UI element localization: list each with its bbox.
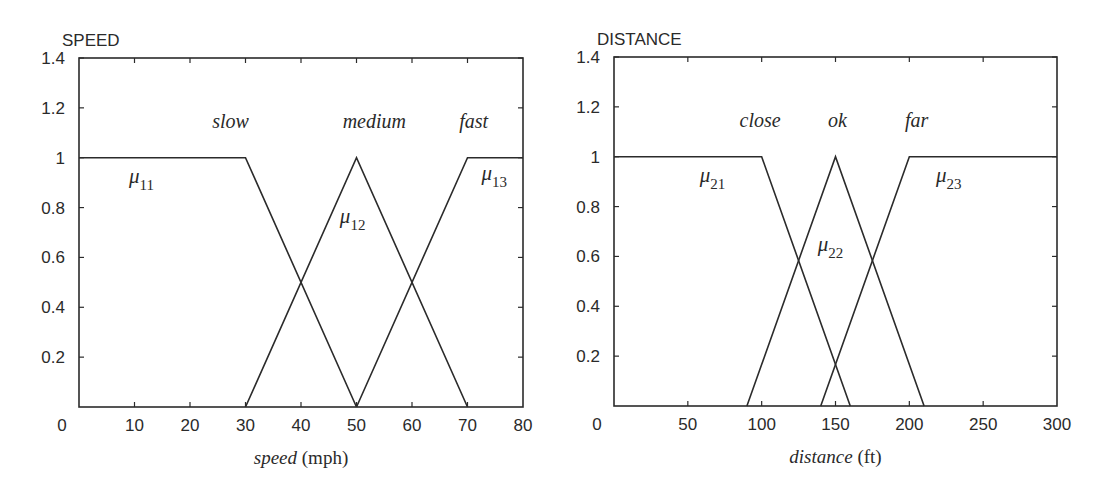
x-tick-label: 0 [592,415,601,434]
x-axis-variable: distance [789,446,857,467]
x-tick-label: 100 [747,415,775,434]
set-label-close: close [740,109,781,131]
x-axis-label: distance (ft) [789,446,881,468]
x-tick-label: 50 [678,415,697,434]
mu-subscript: 21 [710,176,725,192]
x-tick-label: 150 [821,415,849,434]
set-label-ok: ok [828,109,848,131]
distance-chart: DISTANCE0.20.40.60.811.21.40501001502002… [0,0,1105,494]
x-tick-label: 300 [1043,415,1071,434]
mu-symbol: μ [699,163,711,187]
y-tick-label: 1.4 [576,48,600,67]
membership-label-close: μ21 [699,163,726,192]
membership-close-line [614,157,850,406]
mu-symbol: μ [935,163,947,187]
y-tick-label: 0.2 [576,347,600,366]
chart-title: DISTANCE [597,30,682,49]
mu-subscript: 22 [828,245,843,261]
y-tick-label: 0.8 [576,198,600,217]
y-tick-label: 0.6 [576,247,600,266]
mu-subscript: 23 [946,176,961,192]
membership-label-far: μ23 [935,163,962,192]
distance-chart-svg: DISTANCE0.20.40.60.811.21.40501001502002… [0,0,1105,494]
set-label-far: far [905,109,929,132]
y-tick-label: 1 [591,148,600,167]
y-tick-label: 1.2 [576,98,600,117]
mu-symbol: μ [817,232,829,256]
membership-ok-line [747,157,924,406]
membership-label-ok: μ22 [817,232,844,261]
x-tick-label: 200 [895,415,923,434]
y-tick-label: 0.4 [576,297,600,316]
x-axis-unit: (ft) [857,446,881,468]
membership-far-line [821,157,1057,406]
x-tick-label: 250 [969,415,997,434]
